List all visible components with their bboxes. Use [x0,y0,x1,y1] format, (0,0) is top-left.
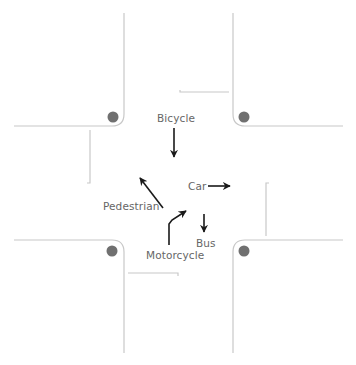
intersection-diagram: Bicycle Car Pedestrian Bus Motorcycle [0,0,356,365]
intersection-canvas [0,0,356,365]
motorcycle-label: Motorcycle [146,250,204,261]
signal-dot-icon [239,112,250,123]
car-label: Car [188,181,206,192]
corner-top-right [233,13,343,126]
signal-dot-icon [107,246,118,257]
stop-line-east [266,183,269,236]
stop-line-south [128,273,178,276]
corner-bottom-left [14,240,124,353]
signal-dots [107,112,250,257]
bicycle-label: Bicycle [157,113,195,124]
pedestrian-label: Pedestrian [103,201,159,212]
signal-dot-icon [239,246,250,257]
signal-dot-icon [108,112,119,123]
corner-bottom-right [233,240,343,353]
bus-label: Bus [196,238,216,249]
stop-line-north [180,90,229,92]
stop-line-west [87,130,90,183]
motorcycle-arrow-icon [169,211,186,245]
corner-top-left [14,13,124,126]
